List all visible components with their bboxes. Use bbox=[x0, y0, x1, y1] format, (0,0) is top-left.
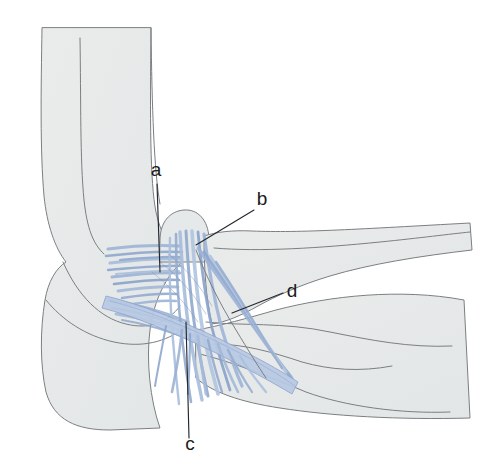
label-d: d bbox=[287, 280, 298, 301]
elbow-anatomy-illustration: a b c d bbox=[0, 0, 492, 465]
anatomy-figure: a b c d bbox=[0, 0, 492, 465]
humerus-shaft bbox=[41, 28, 182, 430]
label-c: c bbox=[185, 433, 195, 454]
label-a: a bbox=[151, 159, 162, 180]
label-b: b bbox=[257, 188, 268, 209]
